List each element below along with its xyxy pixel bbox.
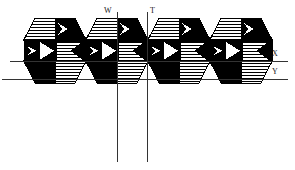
tile-unit <box>24 18 86 83</box>
axis-label-y: Y <box>272 68 278 76</box>
axis-label-x: X <box>272 50 278 58</box>
axis-label-w: W <box>104 7 112 15</box>
tessellation-figure <box>0 0 295 170</box>
figure-canvas: W T X Y <box>0 0 295 170</box>
tile-unit <box>210 18 272 83</box>
axis-label-t: T <box>150 7 155 15</box>
tile-unit <box>148 18 210 83</box>
